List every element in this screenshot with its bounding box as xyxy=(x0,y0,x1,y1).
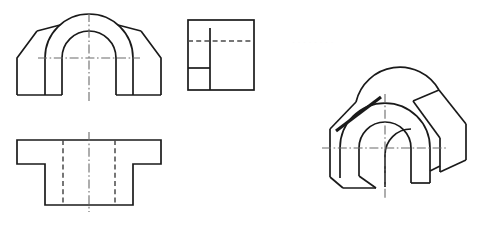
ghost-artifact-text: · · · · · · · · xyxy=(292,37,333,47)
front-view[interactable] xyxy=(17,0,161,101)
isometric-front-mass-fill xyxy=(330,93,430,183)
isometric-left-leg-chamfer xyxy=(359,176,376,188)
top-view[interactable] xyxy=(17,132,161,212)
side-view[interactable] xyxy=(188,20,254,90)
isometric-left-leg-bottom xyxy=(330,177,343,188)
drawing-sheet: · · · · · · · · xyxy=(0,0,485,227)
technical-drawing-canvas: · · · · · · · · xyxy=(0,0,485,227)
isometric-right-leg-back-edge xyxy=(430,166,440,171)
isometric-view[interactable] xyxy=(322,67,466,199)
side-view-fill xyxy=(188,20,254,90)
